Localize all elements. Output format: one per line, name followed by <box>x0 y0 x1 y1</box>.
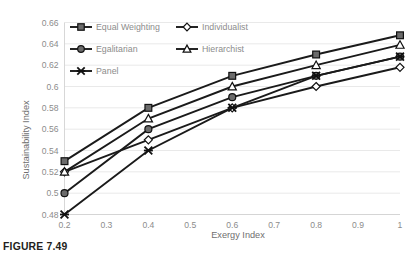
data-point-marker-filled-square <box>61 158 68 165</box>
sustainability-exergy-line-chart: 0.480.50.520.540.560.580.60.620.640.66 0… <box>0 0 415 240</box>
legend-item[interactable]: Individualist <box>176 22 249 32</box>
x-tick-label: 0.6 <box>226 220 238 230</box>
y-axis-tick-labels: 0.480.50.520.540.560.580.60.620.640.66 <box>42 18 59 220</box>
data-point-marker-open-diamond <box>396 63 404 71</box>
x-tick-label: 0.7 <box>268 220 280 230</box>
data-point-marker-open-diamond <box>144 136 152 144</box>
data-point-marker-filled-square <box>229 72 236 79</box>
legend-label: Panel <box>96 66 119 76</box>
legend-item[interactable]: Hierarchist <box>176 44 245 54</box>
legend-label: Equal Weighting <box>96 22 160 32</box>
data-point-marker-cross <box>77 67 86 74</box>
y-tick-label: 0.66 <box>42 18 59 28</box>
y-tick-label: 0.48 <box>42 210 59 220</box>
data-point-marker-filled-square <box>78 24 84 30</box>
y-tick-label: 0.5 <box>47 188 59 198</box>
x-axis-title: Exergy Index <box>211 230 265 240</box>
y-tick-label: 0.56 <box>42 124 59 134</box>
legend-label: Hierarchist <box>202 44 245 54</box>
x-axis-tick-labels: 0.20.30.40.50.60.70.80.91 <box>59 220 403 230</box>
legend-label: Egalitarian <box>96 44 138 54</box>
data-point-marker-cross <box>144 147 153 155</box>
data-point-marker-open-diamond <box>312 83 320 91</box>
legend-item[interactable]: Equal Weighting <box>70 22 160 32</box>
x-tick-label: 0.5 <box>184 220 196 230</box>
y-axis-title: Sustainability Index <box>21 100 31 180</box>
figure-caption: FIGURE 7.49 <box>3 241 68 252</box>
y-tick-label: 0.54 <box>42 146 59 156</box>
data-point-marker-filled-circle <box>145 126 152 133</box>
data-point-marker-filled-circle <box>61 190 68 197</box>
x-tick-label: 0.8 <box>310 220 322 230</box>
figure-container: 0.480.50.520.540.560.580.60.620.640.66 0… <box>0 0 415 263</box>
x-tick-label: 0.2 <box>59 220 71 230</box>
data-point-marker-filled-square <box>397 32 404 39</box>
data-point-marker-filled-circle <box>78 46 85 53</box>
x-tick-label: 1 <box>398 220 403 230</box>
legend: Equal WeightingIndividualistEgalitarianH… <box>70 22 249 76</box>
series-markers <box>60 32 404 219</box>
series-line <box>65 57 401 215</box>
y-tick-label: 0.58 <box>42 103 59 113</box>
x-tick-label: 0.9 <box>352 220 364 230</box>
legend-item[interactable]: Egalitarian <box>70 44 138 54</box>
data-point-marker-filled-square <box>145 104 152 111</box>
y-tick-label: 0.52 <box>42 167 59 177</box>
data-point-marker-open-triangle <box>396 41 404 48</box>
y-tick-label: 0.6 <box>47 82 59 92</box>
data-point-marker-filled-square <box>313 51 320 58</box>
legend-item[interactable]: Panel <box>70 66 119 76</box>
x-tick-label: 0.4 <box>142 220 154 230</box>
data-point-marker-open-diamond <box>183 23 191 31</box>
legend-label: Individualist <box>202 22 249 32</box>
data-point-marker-filled-circle <box>229 94 236 101</box>
series-lines <box>65 35 401 214</box>
y-tick-label: 0.62 <box>42 60 59 70</box>
x-tick-label: 0.3 <box>100 220 112 230</box>
y-tick-label: 0.64 <box>42 39 59 49</box>
